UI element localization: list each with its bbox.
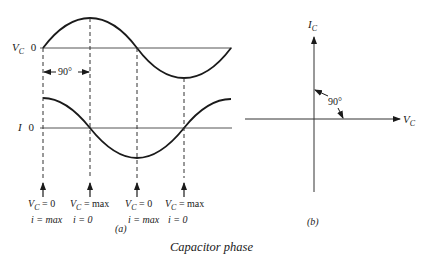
i-axis-label: I 0	[18, 121, 34, 133]
angle-pointer-vertical	[315, 90, 328, 96]
diagram-canvas	[0, 0, 429, 257]
note-2-current: i = 0	[70, 214, 109, 226]
note-4-value: = max	[176, 198, 204, 209]
panel-b-label: (b)	[307, 216, 319, 228]
vc-subscript: C	[19, 47, 24, 56]
note-2-value: = max	[81, 198, 109, 209]
note-4-current: i = 0	[165, 214, 204, 226]
panel-a-label: (a)	[115, 223, 127, 235]
instant-arrows	[43, 183, 184, 197]
i-symbol: I	[18, 121, 22, 133]
vc-phasor-symbol: V	[403, 113, 410, 125]
note-3-value: = 0	[137, 198, 153, 209]
angle-pointer-horizontal	[338, 108, 343, 118]
vc-axis-label: VC 0	[12, 41, 36, 58]
note-instant-3: VC = 0 i = max	[118, 198, 159, 226]
ic-subscript: C	[312, 24, 317, 33]
note-1-value: = 0	[40, 198, 56, 209]
vc-symbol: V	[12, 41, 19, 53]
phase-90-label: 90°	[58, 66, 72, 78]
note-1-current: i = max	[21, 214, 62, 226]
note-instant-2: VC = max i = 0	[70, 198, 109, 226]
phasor-ic-label: IC	[308, 18, 317, 35]
i-zero-label: 0	[28, 121, 34, 133]
phasor-angle-label: 90°	[328, 96, 342, 108]
note-instant-1: VC = 0 i = max	[21, 198, 62, 226]
dashed-guides	[43, 18, 184, 178]
phasor-vc-label: VC	[403, 113, 415, 130]
note-instant-4: VC = max i = 0	[165, 198, 204, 226]
vc-phasor-subscript: C	[410, 119, 415, 128]
vc-zero-label: 0	[31, 41, 37, 53]
figure-caption: Capacitor phase	[170, 240, 253, 255]
